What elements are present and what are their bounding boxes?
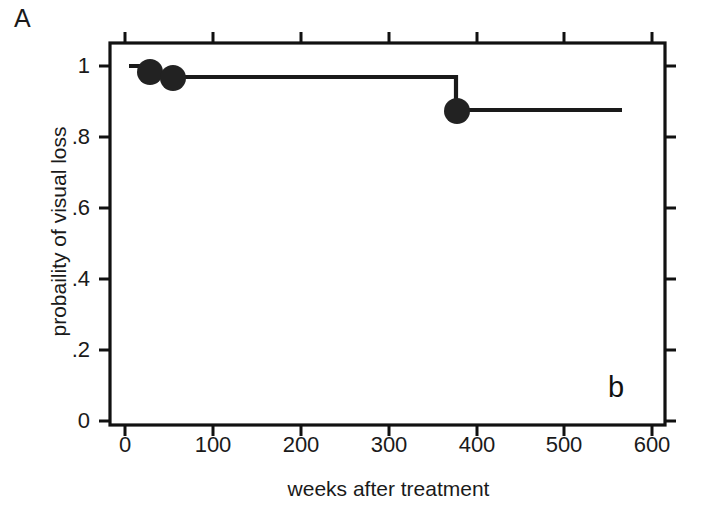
y-axis-ticks-left bbox=[99, 66, 110, 421]
x-axis-ticks-bottom bbox=[125, 425, 652, 436]
event-marker-3 bbox=[444, 98, 470, 124]
x-axis-ticks-top bbox=[125, 32, 652, 43]
survival-step-curve bbox=[129, 66, 622, 110]
kaplan-meier-figure: A probaility of visual loss weeks after … bbox=[0, 0, 702, 517]
event-marker-1 bbox=[137, 59, 163, 85]
y-axis-ticks-right bbox=[665, 66, 676, 421]
event-marker-2 bbox=[160, 65, 186, 91]
event-markers bbox=[137, 59, 470, 124]
plot-frame bbox=[110, 43, 665, 425]
plot-canvas bbox=[0, 0, 702, 517]
